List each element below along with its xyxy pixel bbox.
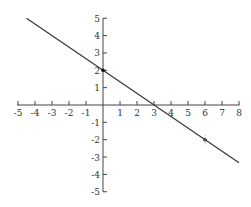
y-tick-label: 3	[94, 48, 100, 58]
x-tick-label: 1	[117, 108, 123, 118]
y-tick-label: 1	[94, 83, 100, 93]
x-tick-label: -3	[48, 108, 57, 118]
x-tick-label: -2	[65, 108, 74, 118]
x-tick-label: -4	[31, 108, 40, 118]
x-tick-label: 5	[185, 108, 191, 118]
x-tick-label: 2	[134, 108, 140, 118]
data-point	[101, 69, 105, 73]
x-tick-label: 6	[202, 108, 208, 118]
line-series	[27, 18, 240, 163]
y-tick-label: -2	[91, 135, 100, 145]
x-tick-label: 8	[236, 108, 242, 118]
y-tick-label: 5	[94, 14, 100, 24]
coordinate-plane: -5-4-3-2-112345678 -5-4-3-2-112345	[0, 0, 251, 207]
y-tick-label: 4	[94, 31, 100, 41]
y-tick-label: -3	[91, 153, 100, 163]
y-tick-label: -5	[91, 187, 100, 197]
x-tick-label: -5	[14, 108, 23, 118]
axes	[17, 18, 240, 192]
x-tick-label: -1	[82, 108, 91, 118]
x-tick-label: 7	[219, 108, 225, 118]
x-axis-ticks: -5-4-3-2-112345678	[14, 101, 243, 118]
y-tick-label: -1	[91, 118, 100, 128]
plotted-line	[27, 18, 240, 163]
x-tick-label: 3	[151, 108, 157, 118]
y-tick-label: -4	[91, 170, 100, 180]
